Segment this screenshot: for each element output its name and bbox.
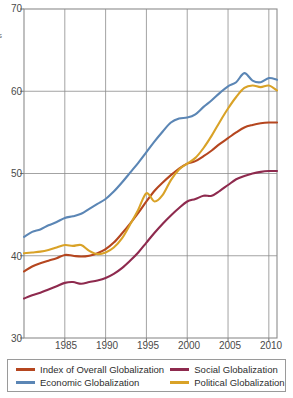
y-axis-tick-labels: 70 60 50 40 30 bbox=[0, 0, 22, 356]
legend-item-social: Social Globalization bbox=[170, 364, 285, 375]
legend-swatch-political bbox=[170, 381, 189, 384]
legend-label-overall: Index of Overall Globalization bbox=[40, 364, 164, 375]
legend-label-political: Political Globalization bbox=[194, 377, 284, 388]
legend-item-political: Political Globalization bbox=[170, 377, 285, 388]
x-tick-label: 2000 bbox=[172, 341, 206, 351]
x-tick-label: 2010 bbox=[254, 341, 288, 351]
legend-label-economic: Economic Globalization bbox=[40, 377, 139, 388]
legend-swatch-economic bbox=[16, 381, 35, 384]
series-line-political-globalization bbox=[24, 85, 277, 254]
legend-row: Economic Globalization Political Globali… bbox=[8, 376, 285, 389]
legend-swatch-social bbox=[170, 368, 189, 371]
x-tick-label: 1985 bbox=[49, 341, 83, 351]
y-tick-label: 70 bbox=[2, 4, 22, 14]
x-tick-label: 2005 bbox=[213, 341, 247, 351]
legend-row: Index of Overall Globalization Social Gl… bbox=[8, 363, 285, 376]
y-tick-label: 40 bbox=[2, 252, 22, 262]
series-line-economic-globalization bbox=[24, 73, 277, 237]
y-tick-label: 50 bbox=[2, 169, 22, 179]
x-axis-tick-labels: 1985 1990 1995 2000 2005 2010 bbox=[0, 341, 293, 355]
series-line-social-globalization bbox=[24, 171, 277, 299]
legend-item-overall: Index of Overall Globalization bbox=[8, 364, 170, 375]
y-tick-label: 60 bbox=[2, 87, 22, 97]
line-chart-svg bbox=[0, 0, 293, 356]
legend-swatch-overall bbox=[16, 368, 35, 371]
x-tick-label: 1990 bbox=[90, 341, 124, 351]
x-tick-label: 1995 bbox=[131, 341, 165, 351]
legend-item-economic: Economic Globalization bbox=[8, 377, 170, 388]
globalization-index-figure: s 70 60 50 40 30 1985 1990 1995 2000 200… bbox=[0, 0, 293, 398]
chart-legend: Index of Overall Globalization Social Gl… bbox=[7, 359, 286, 392]
plot-area: s 70 60 50 40 30 1985 1990 1995 2000 200… bbox=[0, 0, 293, 356]
legend-label-social: Social Globalization bbox=[194, 364, 277, 375]
